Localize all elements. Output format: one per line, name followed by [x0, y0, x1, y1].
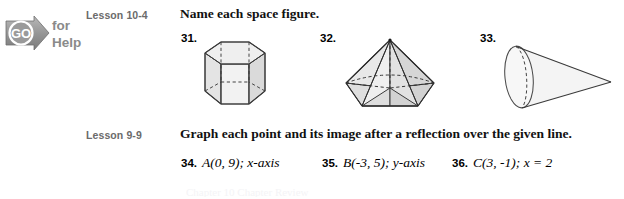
exercise-number-36: 36.	[452, 157, 468, 169]
exercise-number-31: 31.	[181, 32, 197, 44]
direction-graph-each-point: Graph each point and its image after a r…	[180, 126, 572, 142]
figure-hexagonal-pyramid	[340, 34, 440, 116]
exercise-number-35: 35.	[322, 157, 338, 169]
logo-for-label: for	[52, 18, 71, 33]
go-badge-label: GO	[11, 26, 31, 41]
exercise-34: 34.A(0, 9); x-axis	[181, 155, 280, 171]
lesson-label-10-4[interactable]: Lesson 10-4	[86, 9, 148, 21]
exercise-34-line: x-axis	[247, 155, 279, 170]
exercise-36: 36.C(3, -1); x = 2	[452, 155, 552, 171]
exercise-36-point: C(3, -1);	[473, 155, 520, 170]
lesson-label-9-9[interactable]: Lesson 9-9	[86, 129, 142, 141]
exercise-number-33: 33.	[480, 32, 496, 44]
exercise-36-line: x = 2	[524, 155, 553, 170]
cone-graphic	[495, 34, 617, 114]
footer-cut-text: Chapter 10 Chapter Review	[186, 186, 606, 197]
exercise-35-point: B(-3, 5);	[343, 155, 389, 170]
go-for-help-logo-graphic: GO for Help	[4, 14, 82, 54]
logo-help-label: Help	[52, 35, 81, 50]
go-for-help-logo[interactable]: GO for Help	[4, 14, 82, 54]
figure-cone	[495, 34, 617, 114]
exercise-35: 35.B(-3, 5); y-axis	[322, 155, 425, 171]
exercise-number-34: 34.	[181, 157, 197, 169]
figure-hexagonal-prism	[197, 34, 275, 114]
hexagonal-prism-graphic	[197, 34, 275, 114]
hexagonal-pyramid-graphic	[340, 34, 440, 116]
exercise-number-32: 32.	[320, 32, 336, 44]
exercise-34-point: A(0, 9);	[202, 155, 244, 170]
exercise-35-line: y-axis	[393, 155, 425, 170]
direction-name-each-space-figure: Name each space figure.	[180, 6, 319, 22]
